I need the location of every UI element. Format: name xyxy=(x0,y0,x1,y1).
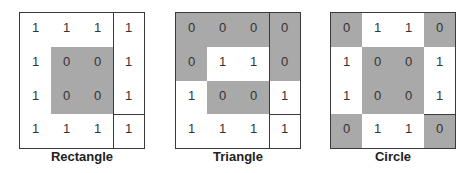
grid-cell: 1 xyxy=(113,47,144,81)
grid-cell: 0 xyxy=(207,81,238,114)
grid-cell: 1 xyxy=(113,114,144,148)
rectangle-grid: 1111100110011111 xyxy=(19,12,145,149)
grid-cell: 1 xyxy=(238,47,269,81)
grid-cell: 1 xyxy=(51,13,82,47)
grid-cell: 0 xyxy=(82,47,113,81)
grid-cell: 1 xyxy=(51,114,82,148)
grid-cell: 1 xyxy=(20,81,51,114)
panel-label: Circle xyxy=(330,149,456,164)
grid-cell: 1 xyxy=(176,114,207,148)
grid-cell: 1 xyxy=(207,47,238,81)
grid-cell: 0 xyxy=(331,114,362,148)
grid-cell: 0 xyxy=(362,81,393,114)
grid-cell: 1 xyxy=(113,81,144,114)
grid-cell: 1 xyxy=(82,13,113,47)
grid-cell: 1 xyxy=(424,47,455,81)
grid-cell: 0 xyxy=(207,13,238,47)
panel-triangle: 0000011010011111 xyxy=(175,12,301,149)
row-divider xyxy=(113,114,144,115)
grid-cell: 0 xyxy=(51,81,82,114)
grid-cell: 0 xyxy=(424,114,455,148)
grid-cell: 1 xyxy=(238,114,269,148)
grid-cell: 1 xyxy=(176,81,207,114)
grid-cell: 0 xyxy=(393,47,424,81)
grid-cell: 1 xyxy=(362,13,393,47)
grid-cell: 1 xyxy=(393,13,424,47)
grid-cell: 1 xyxy=(331,47,362,81)
grid-cell: 0 xyxy=(331,13,362,47)
grid-cell: 1 xyxy=(207,114,238,148)
grid-cell: 1 xyxy=(20,114,51,148)
grid-cell: 1 xyxy=(362,114,393,148)
grid-cell: 0 xyxy=(176,47,207,81)
grid-cell: 0 xyxy=(238,13,269,47)
grid-cell: 0 xyxy=(269,47,300,81)
grid-cell: 1 xyxy=(331,81,362,114)
column-divider xyxy=(113,13,114,148)
grid-cell: 0 xyxy=(238,81,269,114)
triangle-grid: 0000011010011111 xyxy=(175,12,301,149)
grid-cell: 1 xyxy=(269,81,300,114)
panel-rectangle: 1111100110011111 xyxy=(19,12,145,149)
grid-cell: 1 xyxy=(113,13,144,47)
row-divider xyxy=(269,114,300,115)
grid-cell: 1 xyxy=(424,81,455,114)
panel-label: Triangle xyxy=(175,149,301,164)
grid-cell: 1 xyxy=(269,114,300,148)
grid-cell: 0 xyxy=(393,81,424,114)
row-divider xyxy=(424,114,455,115)
panel-label: Rectangle xyxy=(19,149,145,164)
grid-cell: 0 xyxy=(51,47,82,81)
grid-cell: 1 xyxy=(82,114,113,148)
grid-cell: 1 xyxy=(393,114,424,148)
panel-circle: 0110100110010110 xyxy=(330,12,456,149)
circle-grid: 0110100110010110 xyxy=(330,12,456,149)
grid-cell: 1 xyxy=(20,13,51,47)
grid-cell: 0 xyxy=(362,47,393,81)
column-divider xyxy=(269,13,270,148)
grid-cell: 0 xyxy=(269,13,300,47)
grid-cell: 0 xyxy=(176,13,207,47)
grid-cell: 1 xyxy=(20,47,51,81)
grid-cell: 0 xyxy=(424,13,455,47)
grid-cell: 0 xyxy=(82,81,113,114)
